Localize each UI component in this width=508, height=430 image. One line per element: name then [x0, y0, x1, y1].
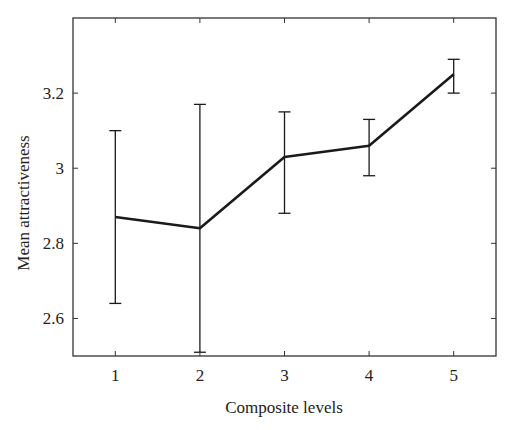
x-tick-label: 4 [365, 366, 374, 385]
error-bar [363, 119, 375, 175]
error-bars [109, 59, 459, 352]
y-tick-label: 3 [56, 159, 65, 178]
x-tick-label: 5 [449, 366, 458, 385]
x-tick-label: 3 [280, 366, 289, 385]
y-axis-label: Mean attractiveness [14, 135, 33, 270]
x-tick-label: 2 [196, 366, 205, 385]
error-bar [279, 112, 291, 213]
y-axis-ticks: 2.62.833.2 [43, 84, 496, 328]
x-tick-label: 1 [111, 366, 120, 385]
y-tick-label: 2.8 [43, 234, 64, 253]
y-tick-label: 3.2 [43, 84, 64, 103]
y-tick-label: 2.6 [43, 309, 64, 328]
x-axis-label: Composite levels [225, 398, 343, 417]
chart: 12345 2.62.833.2 Composite levels Mean a… [0, 0, 508, 430]
